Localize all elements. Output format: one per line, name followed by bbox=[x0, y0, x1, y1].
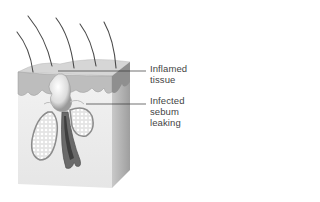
label-inflamed-line2: tissue bbox=[150, 74, 187, 85]
label-sebum-line3: leaking bbox=[150, 117, 185, 128]
label-inflamed-line1: Inflamed bbox=[150, 63, 187, 74]
label-infected-sebum: Infected sebum leaking bbox=[150, 95, 185, 128]
label-sebum-line2: sebum bbox=[150, 106, 185, 117]
label-inflamed-tissue: Inflamed tissue bbox=[150, 63, 187, 85]
label-sebum-line1: Infected bbox=[150, 95, 185, 106]
